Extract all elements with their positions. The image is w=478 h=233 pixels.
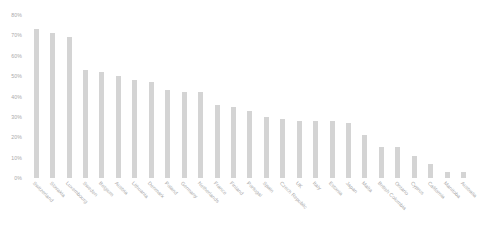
bar[interactable] (231, 107, 236, 178)
bar-slot (209, 15, 225, 178)
x-axis-tick: Switzerland (28, 179, 44, 233)
x-axis-tick: Malta (357, 179, 373, 233)
y-axis-tick-label: 10% (11, 155, 22, 161)
x-axis-tick: Spain (258, 179, 274, 233)
x-axis-tick: Estonia (324, 179, 340, 233)
bar-slot (373, 15, 389, 178)
bar[interactable] (395, 147, 400, 178)
bar-slot (390, 15, 406, 178)
x-axis-tick: Sweden (77, 179, 93, 233)
x-axis-tick-label: UK (295, 180, 304, 189)
x-axis-tick: Portugal (242, 179, 258, 233)
x-axis-tick: Luxembourg (61, 179, 77, 233)
y-axis-tick-label: 30% (11, 114, 22, 120)
bar[interactable] (280, 119, 285, 178)
bar[interactable] (215, 105, 220, 178)
y-axis-tick-label: 50% (11, 73, 22, 79)
bar[interactable] (99, 72, 104, 178)
bar[interactable] (116, 76, 121, 178)
bar-slot (44, 15, 60, 178)
bar-slot (192, 15, 208, 178)
bar[interactable] (247, 111, 252, 178)
bar-slot (127, 15, 143, 178)
bar[interactable] (445, 172, 450, 178)
bar-slot (143, 15, 159, 178)
bar[interactable] (198, 92, 203, 178)
bar[interactable] (346, 123, 351, 178)
bar-slot (77, 15, 93, 178)
x-axis-tick: California (423, 179, 439, 233)
bar-slot (455, 15, 471, 178)
bar[interactable] (67, 37, 72, 178)
bar[interactable] (149, 82, 154, 178)
x-axis-tick: Germany (176, 179, 192, 233)
bar[interactable] (362, 135, 367, 178)
bar[interactable] (34, 29, 39, 178)
x-axis-tick: Slovakia (44, 179, 60, 233)
bar[interactable] (412, 156, 417, 178)
x-axis-tick: Belgium (94, 179, 110, 233)
bar-slot (28, 15, 44, 178)
x-axis-tick: Finland (225, 179, 241, 233)
bar[interactable] (264, 117, 269, 178)
bar-slot (324, 15, 340, 178)
x-axis-tick: UK (291, 179, 307, 233)
bar[interactable] (50, 33, 55, 178)
x-axis-tick: Lithuania (127, 179, 143, 233)
x-axis-tick: Denmark (143, 179, 159, 233)
bar-slot (307, 15, 323, 178)
bar-slot (275, 15, 291, 178)
bar-slot (242, 15, 258, 178)
x-axis-tick: France (209, 179, 225, 233)
plot-area (28, 15, 472, 178)
bar[interactable] (83, 70, 88, 178)
x-axis-tick-label: Australia (459, 180, 478, 199)
x-axis-tick-label: Italy (311, 180, 322, 191)
y-axis-tick-label: 20% (11, 134, 22, 140)
bar-slot (225, 15, 241, 178)
bar-slot (110, 15, 126, 178)
bar[interactable] (461, 172, 466, 178)
x-axis-tick: Manitoba (439, 179, 455, 233)
x-axis-tick: Australia (455, 179, 471, 233)
bar-slot (61, 15, 77, 178)
y-axis-tick-label: 70% (11, 32, 22, 38)
y-axis-tick-label: 0% (14, 175, 22, 181)
bar-slot (357, 15, 373, 178)
x-axis: SwitzerlandSlovakiaLuxembourgSwedenBelgi… (28, 179, 472, 233)
x-axis-tick: Ontario (390, 179, 406, 233)
bar[interactable] (313, 121, 318, 178)
x-axis-tick: Japan (340, 179, 356, 233)
x-axis-tick-label: Malta (361, 180, 374, 193)
y-axis-tick-label: 80% (11, 12, 22, 18)
bar[interactable] (379, 147, 384, 178)
bar-slot (439, 15, 455, 178)
bar-slot (94, 15, 110, 178)
bar-slot (176, 15, 192, 178)
x-axis-tick: Cyprus (406, 179, 422, 233)
bar-slot (423, 15, 439, 178)
y-axis-tick-label: 40% (11, 94, 22, 100)
bar-series (28, 15, 472, 178)
bar[interactable] (297, 121, 302, 178)
bar-slot (160, 15, 176, 178)
y-axis-tick-label: 60% (11, 53, 22, 59)
bar-slot (406, 15, 422, 178)
x-axis-tick: Netherlands (192, 179, 208, 233)
x-axis-tick: Czech Republic (275, 179, 291, 233)
bar[interactable] (132, 80, 137, 178)
x-axis-tick: Austria (110, 179, 126, 233)
bar[interactable] (428, 164, 433, 178)
x-axis-tick: British Columbia (373, 179, 389, 233)
bar-slot (291, 15, 307, 178)
y-axis: 80%70%60%50%40%30%20%10%0% (0, 15, 26, 178)
bar-slot (258, 15, 274, 178)
x-axis-tick: Italy (307, 179, 323, 233)
x-axis-tick: Poland (160, 179, 176, 233)
bar[interactable] (165, 90, 170, 178)
bar-slot (340, 15, 356, 178)
bar[interactable] (182, 92, 187, 178)
bar[interactable] (330, 121, 335, 178)
